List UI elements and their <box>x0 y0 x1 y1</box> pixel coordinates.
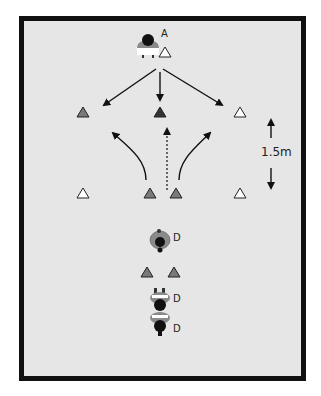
player-head-icon <box>154 320 166 332</box>
cone-icon <box>144 188 156 198</box>
player-shorts-icon <box>137 48 159 55</box>
defender-label: D <box>173 293 181 304</box>
cone-icon <box>168 267 180 277</box>
measurement-indicator: 1.5m <box>261 120 292 188</box>
curved-arrow-right <box>179 133 210 180</box>
cone-icon <box>154 107 166 117</box>
player-head-icon <box>154 299 166 311</box>
player-head-icon <box>155 237 165 247</box>
defender-1: D <box>150 229 181 253</box>
cone-icon <box>77 107 89 117</box>
curved-arrow-left <box>113 133 146 180</box>
defender-label: D <box>173 232 181 243</box>
cone-icon <box>159 47 171 57</box>
arrow-left <box>104 69 156 105</box>
player-head-icon <box>142 34 154 46</box>
cone-icon <box>77 188 89 198</box>
cone-icon <box>234 188 246 198</box>
arrow-right <box>163 69 222 105</box>
cone-icon <box>170 188 182 198</box>
defender-label: D <box>173 323 181 334</box>
drill-diagram: 1.5m A D D <box>0 0 321 396</box>
defender-3: D <box>150 312 181 336</box>
defender-2: D <box>150 288 181 311</box>
measurement-label: 1.5m <box>261 145 292 159</box>
cone-icon <box>141 267 153 277</box>
run-arrows <box>113 129 210 190</box>
cone-icon <box>234 107 246 117</box>
pass-arrows <box>104 69 222 105</box>
player-a-label: A <box>161 28 168 39</box>
